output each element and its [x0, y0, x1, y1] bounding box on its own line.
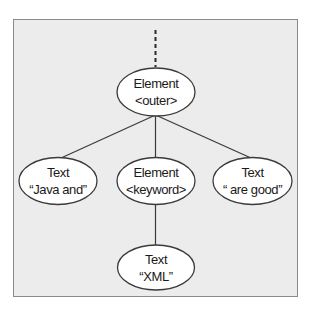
node-value-label: “Java and” — [29, 182, 86, 197]
node-kind-label: Text — [145, 252, 168, 267]
node-value-label: <keyword> — [126, 182, 186, 197]
node-element-keyword: Element <keyword> — [117, 158, 195, 205]
node-text-java-and: Text “Java and” — [19, 158, 97, 205]
node-kind-label: Element — [134, 76, 180, 91]
node-text-xml: Text “XML” — [118, 245, 195, 290]
node-text-are-good: Text “ are good” — [213, 158, 292, 205]
node-kind-label: Element — [134, 165, 180, 180]
node-value-label: “XML” — [139, 269, 172, 284]
edge-outer-to-are-good — [156, 115, 252, 158]
node-element-outer: Element <outer> — [117, 68, 195, 116]
edge-outer-to-java-and — [61, 115, 156, 158]
node-kind-label: Text — [47, 165, 70, 180]
dom-tree-diagram: Element <outer> Text “Java and” Element … — [0, 0, 316, 312]
node-kind-label: Text — [241, 165, 264, 180]
node-value-label: <outer> — [135, 93, 177, 108]
node-value-label: “ are good” — [223, 182, 282, 197]
